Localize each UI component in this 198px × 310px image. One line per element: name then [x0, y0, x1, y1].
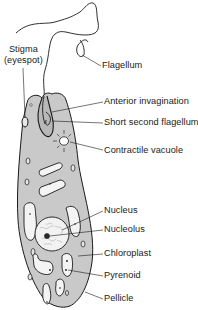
- label-chloroplast: Chloroplast: [104, 248, 151, 259]
- label-stigma-line2: (eyespot): [4, 55, 43, 66]
- label-short-second-flagellum: Short second flagellum: [104, 117, 198, 128]
- stigma: [22, 117, 28, 127]
- label-stigma-line1: Stigma: [4, 44, 43, 55]
- label-stigma: Stigma (eyespot): [4, 44, 43, 66]
- nucleus: [35, 217, 69, 251]
- label-nucleolus: Nucleolus: [104, 224, 145, 235]
- euglena-diagram: Stigma (eyespot) Flagellum Anterior inva…: [0, 0, 198, 310]
- label-pellicle: Pellicle: [104, 293, 134, 304]
- label-anterior-invagination: Anterior invagination: [104, 96, 189, 107]
- label-contractile-vacuole: Contractile vacuole: [104, 145, 183, 156]
- nucleolus: [44, 233, 49, 238]
- label-flagellum: Flagellum: [102, 60, 142, 71]
- label-pyrenoid: Pyrenoid: [104, 270, 141, 281]
- label-nucleus: Nucleus: [104, 205, 138, 216]
